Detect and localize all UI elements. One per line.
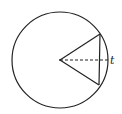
label-t: t [110, 54, 115, 67]
radius-upper [60, 34, 100, 60]
radius-lower [60, 60, 99, 85]
center-point [59, 59, 61, 61]
circle-diagram: t [0, 0, 122, 114]
chord [99, 34, 100, 85]
